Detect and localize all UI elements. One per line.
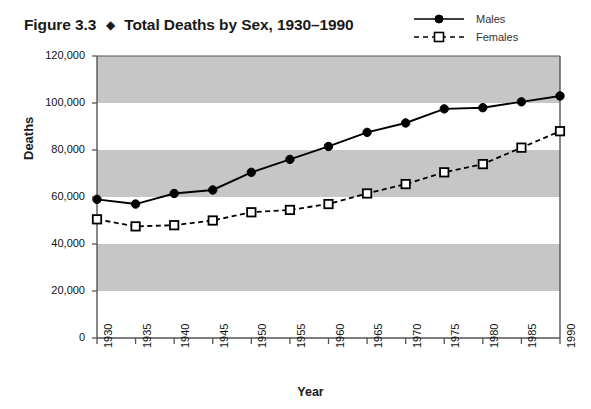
data-point-males-1985 [517,98,525,106]
data-point-males-1960 [324,142,332,150]
data-point-males-1965 [363,128,371,136]
x-tick-label-7: 1965 [372,324,384,348]
background-band-1 [97,150,560,197]
x-tick-label-9: 1975 [449,324,461,348]
data-point-females-1975 [440,168,448,176]
x-tick-label-2: 1940 [179,324,191,348]
data-point-females-1950 [247,208,255,216]
y-tick-label-5: 100,000 [25,96,85,108]
data-point-females-1955 [286,206,294,214]
y-tick-label-1: 20,000 [25,284,85,296]
y-tick-label-2: 40,000 [25,237,85,249]
figure-container: Figure 3.3 ◆ Total Deaths by Sex, 1930–1… [0,0,591,409]
data-point-males-1945 [209,186,217,194]
background-band-2 [97,56,560,103]
data-point-females-1980 [479,160,487,168]
data-point-males-1930 [93,195,101,203]
data-point-females-1960 [324,200,332,208]
data-point-males-1990 [556,92,564,100]
y-tick-label-0: 0 [25,331,85,343]
data-point-males-1975 [440,105,448,113]
data-point-females-1990 [556,127,564,135]
data-point-males-1950 [247,168,255,176]
data-point-females-1930 [93,215,101,223]
x-tick-label-8: 1970 [411,324,423,348]
data-point-males-1970 [401,119,409,127]
data-point-females-1935 [131,222,139,230]
x-tick-label-4: 1950 [256,324,268,348]
x-tick-label-11: 1985 [526,324,538,348]
y-tick-label-6: 120,000 [25,49,85,61]
x-tick-label-0: 1930 [102,324,114,348]
data-point-females-1970 [401,180,409,188]
data-point-females-1965 [363,189,371,197]
data-point-males-1940 [170,189,178,197]
data-point-males-1980 [479,104,487,112]
x-tick-label-3: 1945 [218,324,230,348]
data-point-males-1935 [131,200,139,208]
data-point-males-1955 [286,155,294,163]
x-tick-label-5: 1955 [295,324,307,348]
y-tick-label-4: 80,000 [25,143,85,155]
data-point-females-1945 [209,216,217,224]
x-tick-label-12: 1990 [565,324,577,348]
background-band-0 [97,244,560,291]
data-point-females-1985 [517,143,525,151]
data-point-females-1940 [170,221,178,229]
x-tick-label-6: 1960 [334,324,346,348]
x-tick-label-1: 1935 [141,324,153,348]
x-tick-label-10: 1980 [488,324,500,348]
y-tick-label-3: 60,000 [25,190,85,202]
